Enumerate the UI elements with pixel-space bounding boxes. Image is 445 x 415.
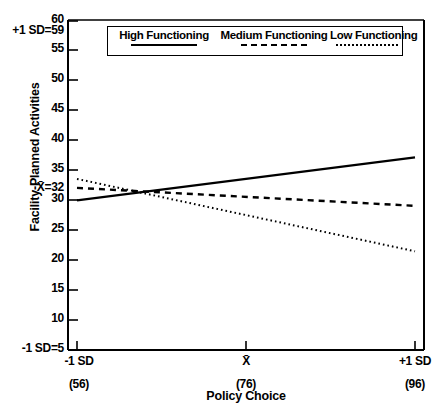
legend: High Functioning Medium Functioning Low … bbox=[107, 26, 403, 56]
x-axis-title: Policy Choice bbox=[68, 389, 424, 403]
y-tick-marks bbox=[68, 21, 78, 320]
legend-entry-low: Low Functioning bbox=[330, 29, 404, 46]
x-tick-plus1sd: +1 SD (96) bbox=[355, 354, 445, 391]
legend-entry-high: High Functioning bbox=[112, 29, 216, 46]
legend-sample-dotted-icon bbox=[336, 44, 398, 46]
series-line-low-functioning bbox=[77, 179, 415, 251]
x-tick-marks bbox=[77, 341, 415, 350]
legend-entry-medium: Medium Functioning bbox=[212, 29, 336, 46]
legend-label: High Functioning bbox=[112, 29, 216, 41]
x-tick-minus1sd: -1 SD (56) bbox=[19, 354, 139, 391]
x-tick-label: -1 SD bbox=[19, 354, 139, 368]
x-tick-label: X̄ bbox=[186, 354, 306, 368]
plot-area bbox=[0, 0, 445, 415]
series-line-high-functioning bbox=[77, 157, 415, 200]
legend-sample-dashed-icon bbox=[241, 44, 307, 46]
legend-label: Medium Functioning bbox=[212, 29, 336, 41]
x-tick-label: +1 SD bbox=[355, 354, 445, 368]
x-tick-mean: X̄ (76) bbox=[186, 354, 306, 391]
legend-label: Low Functioning bbox=[330, 29, 404, 41]
chart-figure: Facility-Planned Activities 60 55 50 45 … bbox=[0, 0, 445, 415]
legend-sample-solid-icon bbox=[131, 44, 197, 46]
